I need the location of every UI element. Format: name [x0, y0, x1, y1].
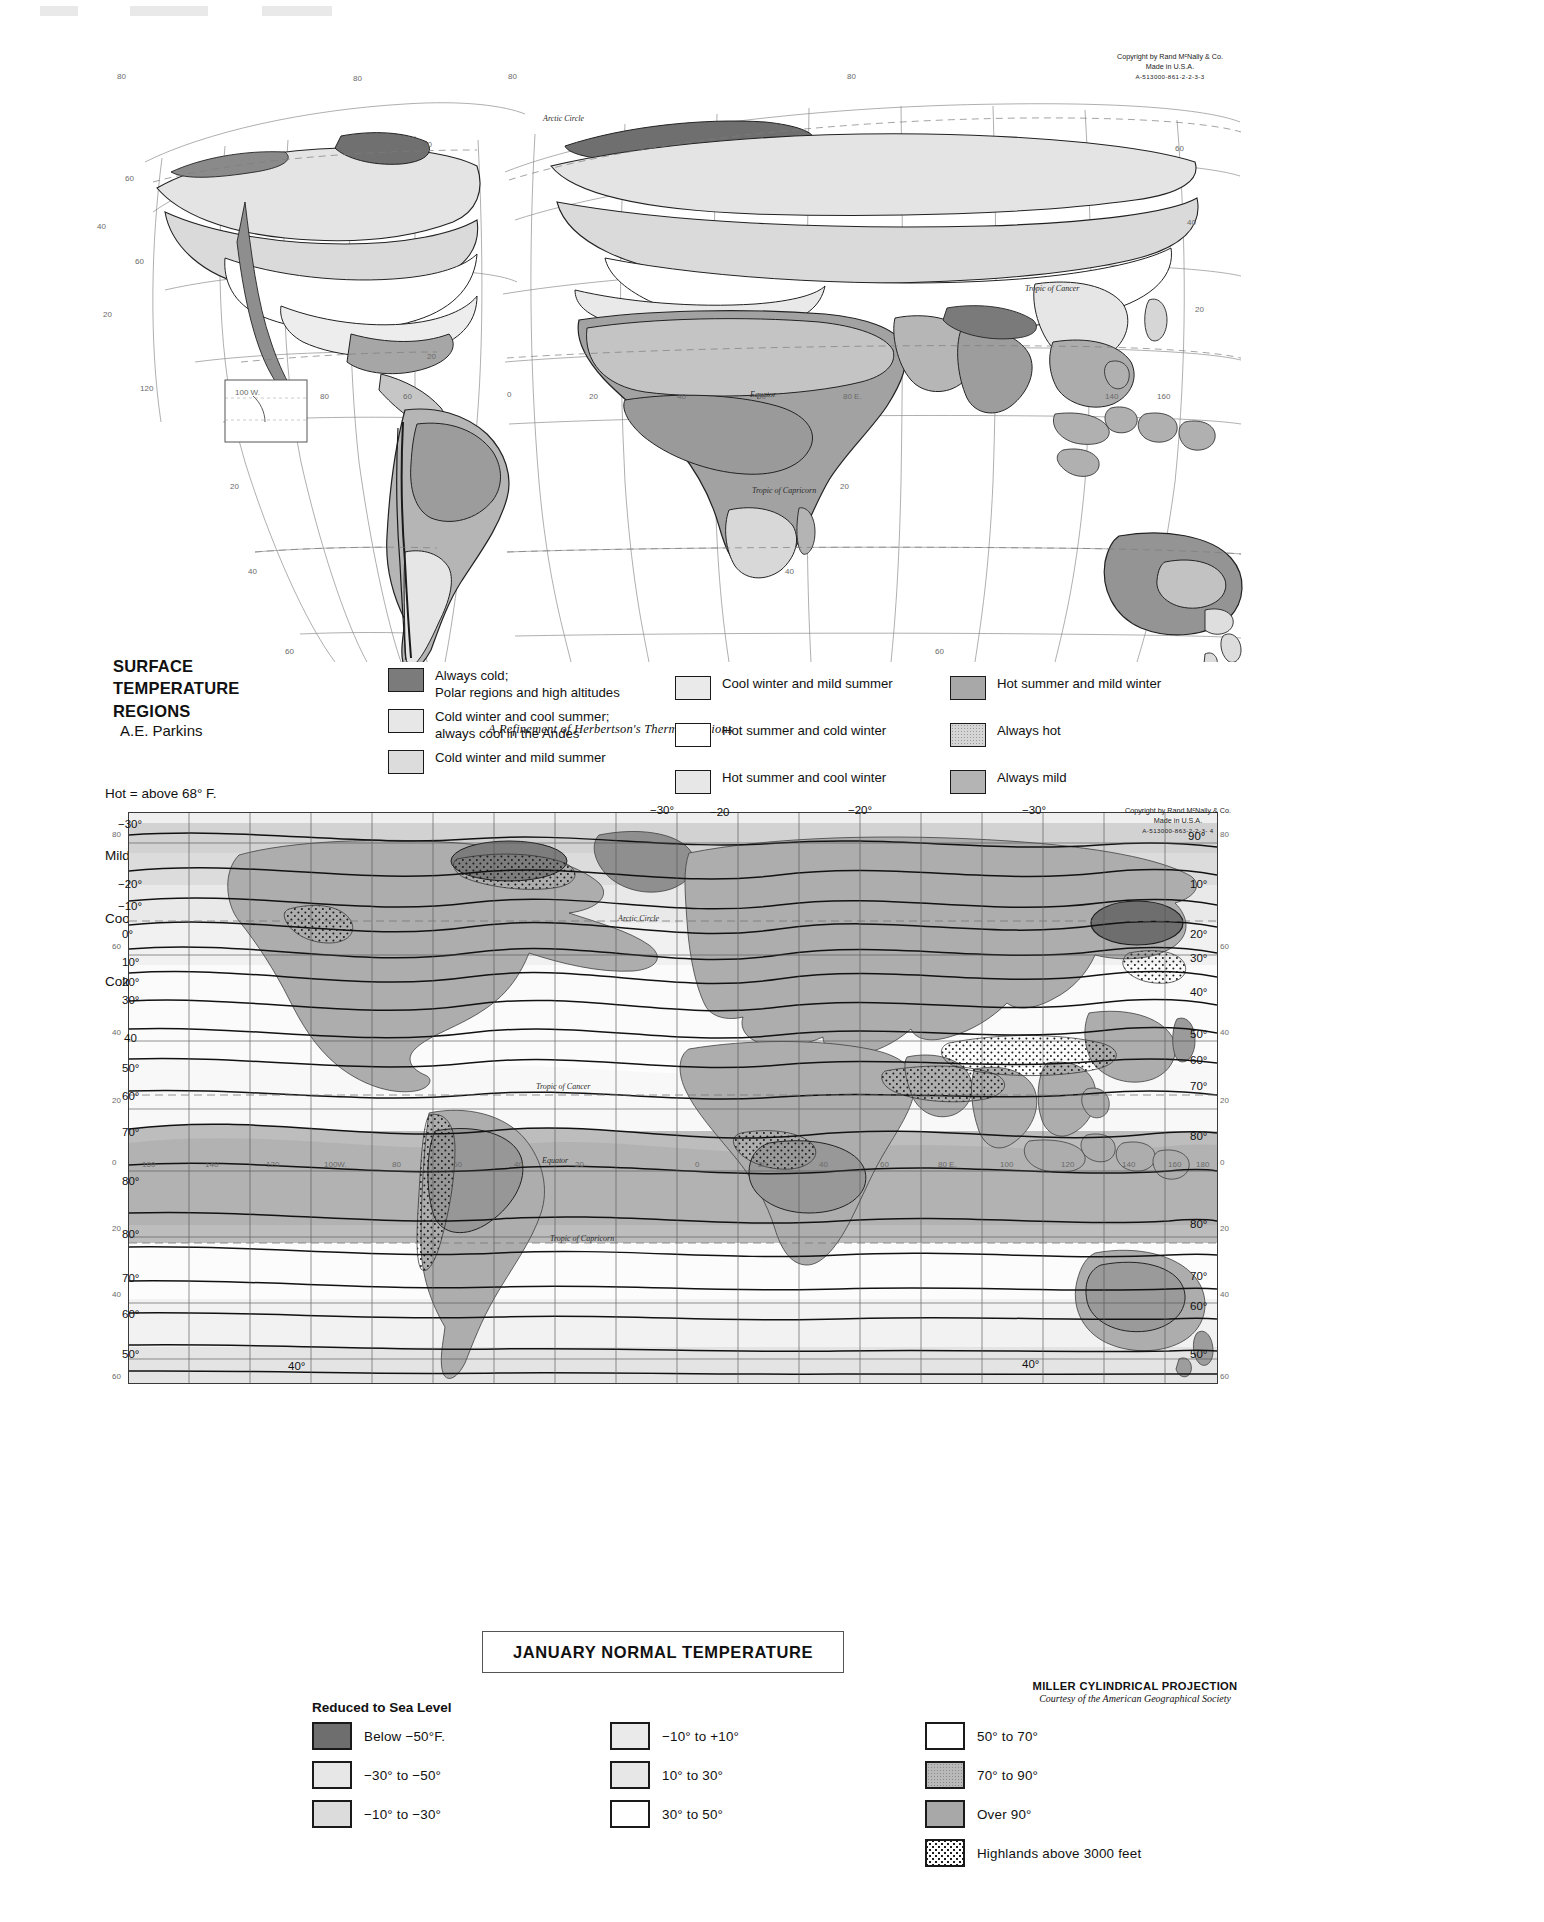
map1-grid-label: 60: [935, 647, 944, 656]
map1-tropic-cancer-label: Tropic of Cancer: [1025, 284, 1079, 293]
legend-swatch-10-to-30: [610, 1761, 650, 1789]
map2-lon-label: 140: [1122, 1160, 1135, 1169]
isotherm-label: 60°: [122, 1090, 139, 1102]
map2-lon-label: 40: [819, 1160, 828, 1169]
map2-lat-label: 60: [1220, 1372, 1229, 1381]
legend-item[interactable]: Highlands above 3000 feet: [925, 1839, 1255, 1867]
map1-copyright-line2: Made in U.S.A.: [1090, 62, 1250, 72]
map2-tropic-cancer-label: Tropic of Cancer: [536, 1082, 590, 1091]
legend-item[interactable]: 50° to 70°: [925, 1722, 1255, 1750]
map1-grid-label: 20: [589, 392, 598, 401]
map1-grid-label: 20: [230, 482, 239, 491]
map2-lat-label: 20: [112, 1224, 121, 1233]
map2-lat-label: 20: [1220, 1096, 1229, 1105]
isotherm-label: 40: [124, 1032, 137, 1044]
legend-swatch-hot-summer-cold-winter: [675, 723, 711, 747]
isotherm-label: 50°: [1190, 1028, 1207, 1040]
map2-lon-label: 120: [266, 1160, 279, 1169]
isotherm-label: 0°: [122, 928, 133, 940]
map2-lon-label: 60: [453, 1160, 462, 1169]
legend-item[interactable]: Cool winter and mild summer: [675, 676, 965, 700]
legend-label-hot-summer-cold-winter: Hot summer and cold winter: [722, 723, 886, 740]
map2-equator-label: Equator: [542, 1156, 568, 1165]
map1-copyright-line1: Copyright by Rand MᶜNally & Co.: [1090, 52, 1250, 62]
map2-lon-label: 60: [880, 1160, 889, 1169]
map2-lon-label: 100: [1000, 1160, 1013, 1169]
legend-item[interactable]: −10° to −30°: [312, 1800, 592, 1828]
map1-grid-label: 60: [423, 140, 432, 149]
legend-label-minus10-to-plus10: −10° to +10°: [662, 1729, 739, 1744]
legend-label-minus10-to-minus30: −10° to −30°: [364, 1807, 441, 1822]
legend-swatch-minus10-to-plus10: [610, 1722, 650, 1750]
legend-item[interactable]: −30° to −50°: [312, 1761, 592, 1789]
map1-grid-label: 80: [117, 72, 126, 81]
map1-copyright-code: A-513000-861-2-2-3-3: [1090, 73, 1250, 82]
page-top-strip: [0, 0, 1544, 26]
isotherm-label: 40°: [288, 1360, 305, 1372]
legend-label-70-to-90: 70° to 90°: [977, 1768, 1038, 1783]
map2-lat-label: 60: [112, 942, 121, 951]
legend-label-hot-summer-cool-winter: Hot summer and cool winter: [722, 770, 886, 787]
isotherm-label: 80°: [122, 1175, 139, 1187]
isotherm-label: −30°: [118, 818, 142, 830]
map1-grid-label: 40: [97, 222, 106, 231]
legend-item[interactable]: Cold winter and cool summer; always cool…: [388, 709, 678, 743]
isotherm-label: 30°: [122, 994, 139, 1006]
map1-grid-label: 160: [1157, 392, 1170, 401]
legend-swatch-hot-summer-mild-winter: [950, 676, 986, 700]
surface-temperature-regions-map[interactable]: Arctic Circle Tropic of Cancer Equator T…: [105, 62, 1245, 662]
legend-item[interactable]: Cold winter and mild summer: [388, 750, 678, 774]
legend-swatch-50-to-70: [925, 1722, 965, 1750]
legend-swatch-hot-summer-cool-winter: [675, 770, 711, 794]
isotherm-label: 60°: [122, 1308, 139, 1320]
map1-grid-label: 60: [757, 392, 766, 401]
legend-item[interactable]: −10° to +10°: [610, 1722, 890, 1750]
map1-grid-label: 80 E.: [843, 392, 862, 401]
map2-lon-label: 80: [392, 1160, 401, 1169]
legend-swatch-highlands: [925, 1839, 965, 1867]
map1-copyright: Copyright by Rand MᶜNally & Co. Made in …: [1090, 52, 1250, 82]
legend-item[interactable]: Hot summer and mild winter: [950, 676, 1250, 700]
map2-lat-label: 20: [112, 1096, 121, 1105]
legend-item[interactable]: Below −50°F.: [312, 1722, 592, 1750]
legend-item[interactable]: Hot summer and cool winter: [675, 770, 965, 794]
map2-lat-label: 20: [1220, 1224, 1229, 1233]
map2-lat-label: 40: [1220, 1290, 1229, 1299]
legend-item[interactable]: Always cold; Polar regions and high alti…: [388, 668, 678, 702]
isotherm-label: 20°: [122, 976, 139, 988]
map2-lon-label: 80 E.: [938, 1160, 957, 1169]
legend-item[interactable]: Always mild: [950, 770, 1250, 794]
map2-legend-heading: Reduced to Sea Level: [312, 1700, 452, 1715]
map2-lat-label: 40: [112, 1028, 121, 1037]
legend-item[interactable]: Always hot: [950, 723, 1250, 747]
legend-label-cold-winter-cool-summer: Cold winter and cool summer; always cool…: [435, 709, 609, 743]
map1-grid-label: 20: [840, 482, 849, 491]
isotherm-label: 60°: [1190, 1054, 1207, 1066]
map2-arctic-circle-label: Arctic Circle: [618, 914, 659, 923]
legend-label-minus30-to-minus50: −30° to −50°: [364, 1768, 441, 1783]
map2-lon-label: 180: [1196, 1160, 1209, 1169]
map2-lon-label: 100W.: [324, 1160, 347, 1169]
map2-title-box: JANUARY NORMAL TEMPERATURE: [482, 1631, 844, 1673]
legend-item[interactable]: 10° to 30°: [610, 1761, 890, 1789]
legend-item[interactable]: Hot summer and cold winter: [675, 723, 965, 747]
map2-copyright-line2: Made in U.S.A.: [1098, 816, 1258, 826]
map1-grid-label: 20: [1195, 305, 1204, 314]
legend-item[interactable]: 30° to 50°: [610, 1800, 890, 1828]
legend-label-30-to-50: 30° to 50°: [662, 1807, 723, 1822]
isotherm-label: 50°: [122, 1062, 139, 1074]
january-normal-temperature-map[interactable]: −30° −20° −10° 0° 10° 20° 30° 40 50° 60°…: [110, 800, 1235, 1395]
legend-item[interactable]: 70° to 90°: [925, 1761, 1255, 1789]
map1-legend-column-1: Always cold; Polar regions and high alti…: [388, 668, 678, 781]
legend-item[interactable]: Over 90°: [925, 1800, 1255, 1828]
isotherm-label: 50°: [122, 1348, 139, 1360]
isotherm-label: −10°: [118, 900, 142, 912]
map2-lon-label: 20: [575, 1160, 584, 1169]
isotherm-label: 80°: [122, 1228, 139, 1240]
map2-lon-label: 120: [1061, 1160, 1074, 1169]
map2-lon-label: 20: [758, 1160, 767, 1169]
map2-tropic-capricorn-label: Tropic of Capricorn: [550, 1234, 614, 1243]
map2-legend-column-1: Below −50°F. −30° to −50° −10° to −30°: [312, 1722, 592, 1839]
map2-lon-label: 160: [1168, 1160, 1181, 1169]
legend-label-always-hot: Always hot: [997, 723, 1061, 740]
